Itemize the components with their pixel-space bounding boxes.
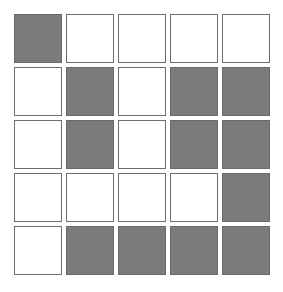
grid-cell-r4-c3-empty <box>118 173 166 222</box>
grid-cell-r5-c2-filled <box>66 226 114 275</box>
grid-cell-r3-c1-empty <box>14 120 62 169</box>
grid-cell-r3-c2-filled <box>66 120 114 169</box>
grid-cell-r5-c5-filled <box>222 226 270 275</box>
grid-cell-r3-c5-filled <box>222 120 270 169</box>
grid-cell-r2-c1-empty <box>14 67 62 116</box>
grid-cell-r5-c1-empty <box>14 226 62 275</box>
grid-cell-r4-c1-empty <box>14 173 62 222</box>
grid-cell-r1-c2-empty <box>66 14 114 63</box>
grid-cell-r3-c3-empty <box>118 120 166 169</box>
grid-cell-r1-c5-empty <box>222 14 270 63</box>
pattern-grid <box>14 14 270 275</box>
grid-cell-r1-c3-empty <box>118 14 166 63</box>
grid-cell-r1-c1-filled <box>14 14 62 63</box>
grid-cell-r2-c2-filled <box>66 67 114 116</box>
grid-cell-r1-c4-empty <box>170 14 218 63</box>
grid-cell-r4-c2-empty <box>66 173 114 222</box>
grid-cell-r2-c3-empty <box>118 67 166 116</box>
grid-cell-r2-c4-filled <box>170 67 218 116</box>
grid-cell-r3-c4-filled <box>170 120 218 169</box>
grid-cell-r4-c4-empty <box>170 173 218 222</box>
grid-cell-r2-c5-filled <box>222 67 270 116</box>
grid-cell-r4-c5-filled <box>222 173 270 222</box>
grid-cell-r5-c4-filled <box>170 226 218 275</box>
grid-cell-r5-c3-filled <box>118 226 166 275</box>
